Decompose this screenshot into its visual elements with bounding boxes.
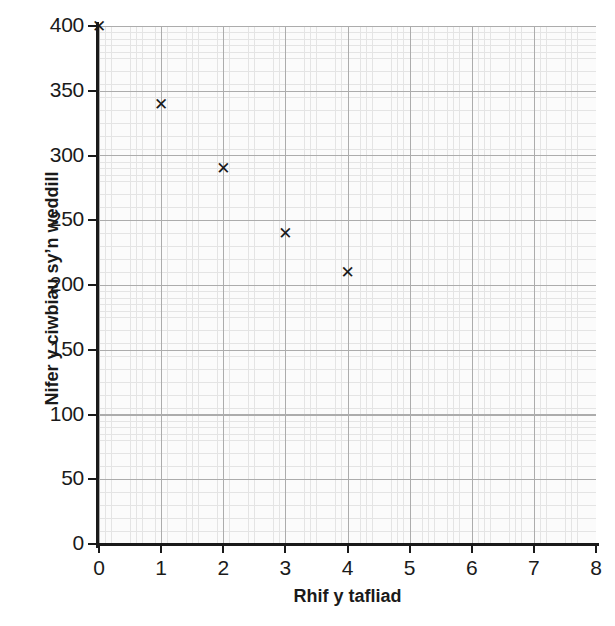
x-tick-mark <box>409 544 411 553</box>
x-tick-mark <box>222 544 224 553</box>
x-axis-title: Rhif y tafliad <box>99 586 596 607</box>
y-tick-mark <box>88 284 98 286</box>
x-tick-mark <box>347 544 349 553</box>
data-point-marker: ✕ <box>152 95 170 113</box>
scatter-chart: · · · ✕✕✕✕✕ 050100150200250300350400 012… <box>0 0 615 626</box>
x-tick-mark <box>98 544 100 553</box>
x-tick-label: 8 <box>581 556 611 580</box>
data-point-marker: ✕ <box>339 263 357 281</box>
y-tick-mark <box>88 478 98 480</box>
x-tick-label: 1 <box>146 556 176 580</box>
x-tick-mark <box>533 544 535 553</box>
x-tick-label: 5 <box>395 556 425 580</box>
x-tick-mark <box>284 544 286 553</box>
x-tick-label: 4 <box>333 556 363 580</box>
y-tick-mark <box>88 155 98 157</box>
x-tick-mark <box>160 544 162 553</box>
x-tick-label: 2 <box>208 556 238 580</box>
x-tick-label: 7 <box>519 556 549 580</box>
x-tick-mark <box>471 544 473 553</box>
x-tick-label: 3 <box>270 556 300 580</box>
y-tick-mark <box>88 90 98 92</box>
cropped-text-artifacts: · · · <box>0 0 615 8</box>
y-tick-mark <box>88 219 98 221</box>
x-tick-label: 0 <box>84 556 114 580</box>
y-tick-mark <box>88 414 98 416</box>
x-tick-mark <box>595 544 597 553</box>
y-axis-title: Nifer y ciwbiau sy’n weddill <box>42 29 63 549</box>
y-tick-mark <box>88 25 98 27</box>
data-point-marker: ✕ <box>214 159 232 177</box>
y-tick-mark <box>88 543 98 545</box>
x-tick-label: 6 <box>457 556 487 580</box>
graph-paper-texture <box>99 26 596 544</box>
y-tick-mark <box>88 349 98 351</box>
data-point-marker: ✕ <box>276 224 294 242</box>
plot-area: ✕✕✕✕✕ <box>99 26 596 544</box>
